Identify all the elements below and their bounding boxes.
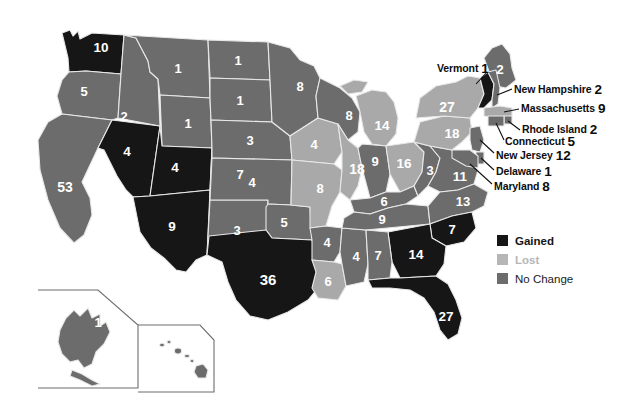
callout-rhode-island-value: 2 xyxy=(590,122,597,137)
callout-vermont-value: 1 xyxy=(481,61,488,76)
callout-new-jersey-value: 12 xyxy=(556,148,571,163)
callout-maryland: Maryland8 xyxy=(494,181,550,192)
map-legend: Gained Lost No Change xyxy=(497,232,607,289)
callout-connecticut-name: Connecticut xyxy=(505,135,565,147)
callout-new-hampshire: New Hampshire2 xyxy=(514,84,602,95)
callout-connecticut-value: 5 xyxy=(568,134,575,149)
legend-label-lost: Lost xyxy=(515,254,539,266)
legend-label-gained: Gained xyxy=(515,235,554,247)
callout-maryland-value: 8 xyxy=(542,179,549,194)
callout-vermont-name: Vermont xyxy=(437,62,478,74)
callout-massachusetts-name: Massachusetts xyxy=(521,102,595,114)
callout-vermont: Vermont1 xyxy=(437,63,489,74)
callout-massachusetts: Massachusetts9 xyxy=(521,103,605,114)
legend-swatch-gained-icon xyxy=(497,235,508,246)
callout-maryland-name: Maryland xyxy=(494,180,539,192)
us-electoral-map-figure: 10 5 53 4 2 1 1 4 9 7 3 1 1 3 4 5 36 8 4… xyxy=(0,0,624,415)
callout-new-hampshire-name: New Hampshire xyxy=(514,83,591,95)
legend-row-gained[interactable]: Gained xyxy=(497,232,607,249)
callout-massachusetts-value: 9 xyxy=(598,101,605,116)
callout-delaware: Delaware1 xyxy=(496,166,552,177)
legend-label-nochange: No Change xyxy=(515,273,573,285)
legend-swatch-nochange-icon xyxy=(497,273,508,284)
callout-delaware-value: 1 xyxy=(544,164,551,179)
legend-swatch-lost-icon xyxy=(497,254,508,265)
legend-row-lost[interactable]: Lost xyxy=(497,251,607,268)
callout-labels-group: Vermont1 New Hampshire2 Massachusetts9 R… xyxy=(0,0,624,415)
callout-new-hampshire-value: 2 xyxy=(594,82,601,97)
callout-new-jersey: New Jersey12 xyxy=(496,150,571,161)
callout-connecticut: Connecticut5 xyxy=(505,136,575,147)
callout-rhode-island: Rhode Island2 xyxy=(522,124,597,135)
callout-new-jersey-name: New Jersey xyxy=(496,149,553,161)
callout-delaware-name: Delaware xyxy=(496,165,541,177)
callout-rhode-island-name: Rhode Island xyxy=(522,123,587,135)
legend-row-nochange[interactable]: No Change xyxy=(497,270,607,287)
